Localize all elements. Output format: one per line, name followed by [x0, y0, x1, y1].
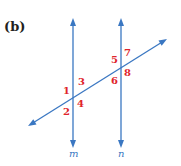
angle-label-4: 4 — [77, 98, 84, 109]
arrowhead-transversal-left — [28, 119, 37, 126]
arrowhead-m-bottom — [70, 140, 76, 148]
line-m — [70, 18, 76, 148]
angle-label-3: 3 — [78, 76, 85, 87]
line-name-n: n — [118, 148, 124, 159]
angle-label-7: 7 — [124, 47, 131, 58]
transversal-line — [28, 39, 167, 126]
arrowhead-n-bottom — [118, 140, 124, 148]
angle-label-1: 1 — [63, 85, 70, 96]
line-name-m: m — [69, 148, 78, 159]
arrowhead-m-top — [70, 18, 76, 26]
angle-label-6: 6 — [111, 75, 118, 86]
arrowhead-n-top — [118, 18, 124, 26]
line-n — [118, 18, 124, 148]
part-label: (b) — [4, 19, 25, 34]
angle-label-8: 8 — [124, 67, 131, 78]
parallel-lines-diagram: (b) 1 3 2 4 5 7 6 8 m n — [0, 0, 181, 166]
arrowhead-transversal-right — [159, 39, 168, 46]
angle-label-2: 2 — [63, 106, 70, 117]
angle-label-5: 5 — [111, 54, 118, 65]
